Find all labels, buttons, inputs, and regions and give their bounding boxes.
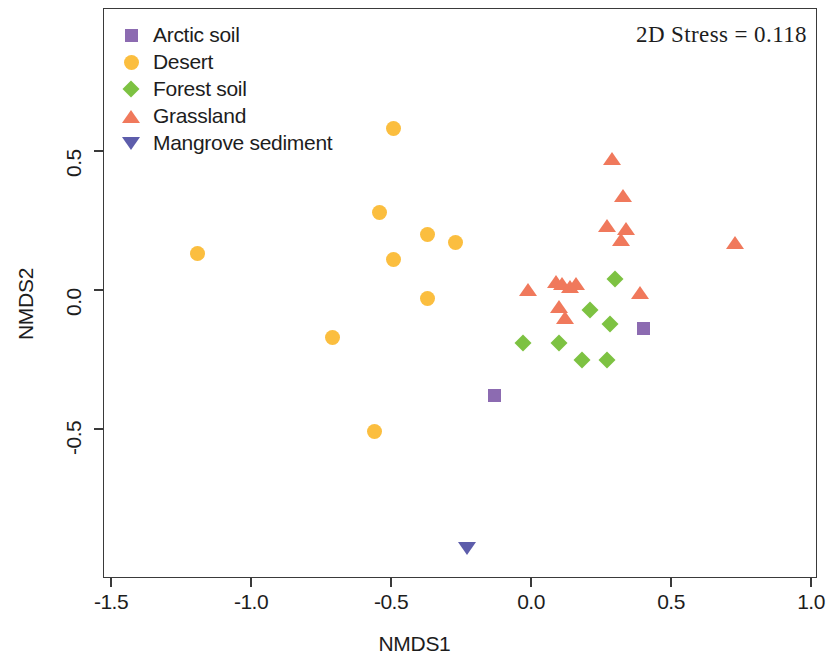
diamond-marker-icon — [514, 335, 531, 352]
triangle-legend-icon — [118, 110, 144, 123]
triangle-marker-icon — [556, 311, 574, 324]
x-axis-tick-label: 0.5 — [626, 590, 716, 614]
data-point-forest-soil — [576, 354, 588, 366]
data-point-grassland — [556, 311, 574, 324]
data-point-desert — [367, 424, 382, 439]
data-point-desert — [448, 235, 463, 250]
triangle-marker-icon — [603, 152, 621, 165]
circle-marker-icon — [386, 252, 401, 267]
data-point-forest-soil — [604, 318, 616, 330]
legend-item-label: Arctic soil — [153, 22, 240, 48]
data-point-grassland — [603, 152, 621, 165]
y-axis-tick — [94, 289, 103, 291]
y-axis-tick — [94, 428, 103, 430]
triangle-marker-icon — [598, 219, 616, 232]
legend-item-forest-soil: Forest soil — [118, 76, 332, 102]
legend-item-grassland: Grassland — [118, 103, 332, 129]
circle-marker-icon — [367, 424, 382, 439]
data-point-forest-soil — [601, 354, 613, 366]
x-axis-tick-label: -0.5 — [346, 590, 436, 614]
circle-marker-icon — [386, 121, 401, 136]
data-point-desert — [420, 291, 435, 306]
triangle-marker-icon — [614, 189, 632, 202]
legend-item-mangrove-sediment: Mangrove sediment — [118, 130, 332, 156]
data-point-desert — [420, 227, 435, 242]
y-axis-tick-label: 0.0 — [62, 288, 86, 316]
triangle-marker-icon — [612, 233, 630, 246]
data-point-desert — [325, 330, 340, 345]
y-axis-tick-label: 0.5 — [62, 149, 86, 177]
diamond-marker-icon — [607, 271, 624, 288]
x-axis-tick — [110, 578, 112, 587]
data-point-grassland — [726, 236, 744, 249]
x-axis-tick — [390, 578, 392, 587]
data-point-grassland — [612, 233, 630, 246]
data-point-forest-soil — [517, 337, 529, 349]
x-axis-title: NMDS1 — [0, 632, 829, 656]
triangle-marker-icon — [519, 283, 537, 296]
x-axis-tick — [250, 578, 252, 587]
triangle-marker-icon — [561, 280, 579, 293]
data-point-grassland — [519, 283, 537, 296]
square-legend-icon — [118, 29, 144, 42]
diamond-marker-icon — [582, 301, 599, 318]
diamond-marker-icon — [598, 351, 615, 368]
data-point-arctic-soil — [488, 389, 501, 402]
x-axis-tick-label: 1.0 — [766, 590, 829, 614]
legend-item-arctic-soil: Arctic soil — [118, 22, 332, 48]
square-marker-icon — [637, 322, 650, 335]
y-axis-tick-label: -0.5 — [62, 421, 86, 455]
diamond-marker-icon — [551, 335, 568, 352]
circle-marker-icon — [190, 246, 205, 261]
data-point-grassland — [614, 189, 632, 202]
triangle-marker-icon — [631, 286, 649, 299]
data-point-grassland — [561, 280, 579, 293]
legend-item-desert: Desert — [118, 49, 332, 75]
legend-item-label: Desert — [153, 49, 213, 75]
legend-item-label: Forest soil — [153, 76, 247, 102]
square-marker-icon — [488, 389, 501, 402]
circle-marker-icon — [420, 291, 435, 306]
triangle-marker-icon — [726, 236, 744, 249]
circle-marker-icon — [372, 205, 387, 220]
data-point-desert — [372, 205, 387, 220]
circle-marker-icon — [325, 330, 340, 345]
triangle-down-marker-icon — [458, 542, 476, 555]
circle-legend-icon — [118, 55, 144, 70]
diamond-marker-icon — [601, 315, 618, 332]
circle-marker-icon — [448, 235, 463, 250]
x-axis-tick-label: -1.5 — [66, 590, 156, 614]
data-point-desert — [190, 246, 205, 261]
data-point-forest-soil — [609, 273, 621, 285]
triangle-down-legend-icon — [118, 137, 144, 150]
nmds-scatter-figure: -1.5-1.0-0.50.00.51.00.50.0-0.5 Arctic s… — [0, 0, 829, 668]
x-axis-tick-label: -1.0 — [206, 590, 296, 614]
x-axis-tick — [810, 578, 812, 587]
diamond-marker-icon — [573, 351, 590, 368]
y-axis-title: NMDS2 — [14, 268, 38, 340]
x-axis-tick — [530, 578, 532, 587]
data-point-mangrove-sediment — [458, 542, 476, 555]
legend-item-label: Grassland — [153, 103, 246, 129]
data-point-arctic-soil — [637, 322, 650, 335]
x-axis-tick-label: 0.0 — [486, 590, 576, 614]
legend-item-label: Mangrove sediment — [153, 130, 332, 156]
data-point-desert — [386, 252, 401, 267]
data-point-grassland — [631, 286, 649, 299]
x-axis-tick — [670, 578, 672, 587]
data-point-desert — [386, 121, 401, 136]
data-point-grassland — [598, 219, 616, 232]
circle-marker-icon — [420, 227, 435, 242]
y-axis-tick — [94, 150, 103, 152]
stress-annotation: 2D Stress = 0.118 — [636, 22, 807, 48]
legend: Arctic soilDesertForest soilGrasslandMan… — [118, 22, 332, 157]
data-point-forest-soil — [584, 304, 596, 316]
diamond-legend-icon — [118, 83, 144, 95]
data-point-forest-soil — [553, 337, 565, 349]
